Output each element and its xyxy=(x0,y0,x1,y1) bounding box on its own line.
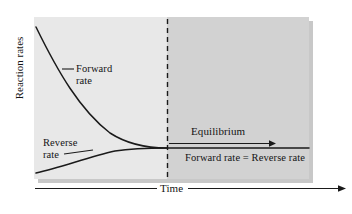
rates-equal-note: Forward rate = Reverse rate xyxy=(185,152,305,164)
y-axis-label: Reaction rates xyxy=(13,28,25,108)
forward-rate-label-line2: rate xyxy=(76,75,112,87)
equilibrium-reaction-rates-figure: Reaction rates Forward rate Reverse rate… xyxy=(0,0,352,214)
x-axis-arrow-head-icon xyxy=(338,185,346,192)
forward-rate-label-line1: Forward xyxy=(76,63,112,75)
equilibrium-label: Equilibrium xyxy=(191,125,245,137)
forward-rate-label: Forward rate xyxy=(76,63,112,87)
x-axis-label: Time xyxy=(160,182,183,194)
reverse-rate-label-line2: rate xyxy=(43,149,78,161)
reverse-rate-label: Reverse rate xyxy=(43,137,78,161)
reverse-rate-label-line1: Reverse xyxy=(43,137,78,149)
